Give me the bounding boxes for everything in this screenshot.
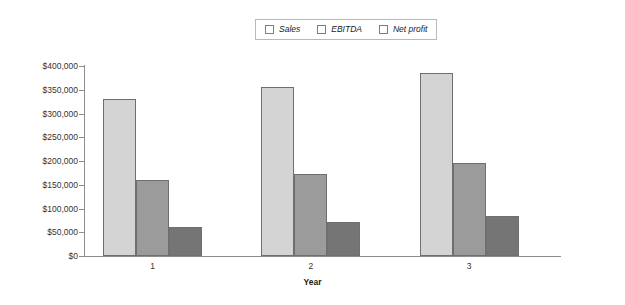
x-axis-title: Year (0, 278, 625, 287)
y-axis-tick-label: $50,000 (47, 228, 78, 237)
y-axis-tick-label: $0 (69, 252, 78, 261)
bar-ebitda-year-1 (136, 180, 169, 256)
legend-swatch-icon-sales (265, 25, 274, 34)
y-axis-tick-label: $100,000 (43, 204, 78, 213)
bar-sales-year-3 (420, 73, 453, 256)
bar-net-profit-year-3 (486, 216, 519, 256)
x-axis-line (84, 256, 561, 257)
x-axis-tick-label-year-3: 3 (467, 262, 472, 271)
y-axis-tick-label: $150,000 (43, 181, 78, 190)
bar-ebitda-year-2 (294, 174, 327, 256)
bar-sales-year-2 (261, 87, 294, 256)
legend-label-net-profit: Net profit (393, 25, 428, 34)
legend-label-ebitda: EBITDA (331, 25, 362, 34)
y-axis-tick-label: $350,000 (43, 86, 78, 95)
bar-chart-figure: Sales EBITDA Net profit $400,000$350,000… (0, 0, 625, 305)
x-axis-tick-label-year-1: 1 (150, 262, 155, 271)
y-axis-tick-label: $250,000 (43, 133, 78, 142)
bar-net-profit-year-2 (327, 222, 360, 256)
plot-area (85, 66, 560, 256)
x-axis-tick-label-year-2: 2 (308, 262, 313, 271)
legend-item-ebitda[interactable]: EBITDA (317, 25, 362, 34)
chart-legend: Sales EBITDA Net profit (255, 19, 437, 40)
bar-ebitda-year-3 (453, 163, 486, 256)
legend-swatch-icon-net-profit (379, 25, 388, 34)
bar-net-profit-year-1 (169, 227, 202, 256)
legend-label-sales: Sales (279, 25, 300, 34)
y-axis-tick-label: $200,000 (43, 157, 78, 166)
y-axis-labels: $400,000$350,000$300,000$250,000$200,000… (0, 0, 78, 305)
legend-swatch-icon-ebitda (317, 25, 326, 34)
y-axis-tick-label: $300,000 (43, 109, 78, 118)
y-axis-tick-label: $400,000 (43, 62, 78, 71)
legend-item-net-profit[interactable]: Net profit (379, 25, 428, 34)
legend-item-sales[interactable]: Sales (265, 25, 300, 34)
bar-sales-year-1 (103, 99, 136, 256)
